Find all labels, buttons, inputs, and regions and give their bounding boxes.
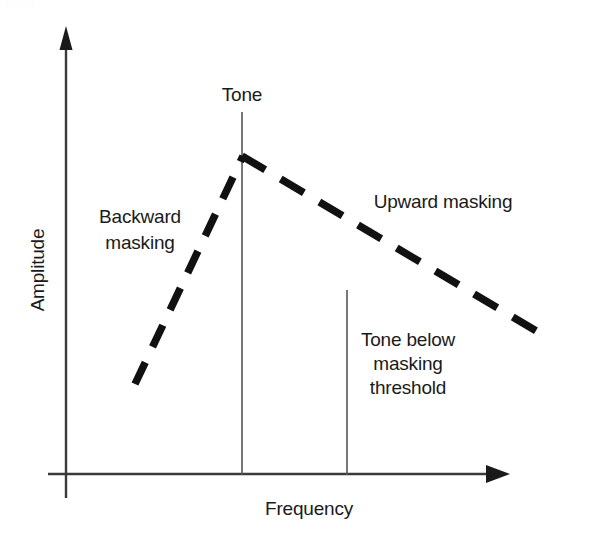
backward-masking-label-line1: Backward: [99, 205, 181, 228]
backward-masking-curve: [135, 156, 243, 384]
tone-label: Tone: [222, 83, 262, 106]
tone-below-threshold-label-line2: masking: [373, 352, 442, 375]
tone-below-threshold-label-line3: threshold: [370, 376, 446, 399]
x-axis-label: Frequency: [265, 497, 353, 520]
y-axis-label: Amplitude: [26, 229, 49, 312]
x-axis: [48, 465, 510, 483]
masking-curve-figure: Tone Backward masking Upward masking Ton…: [0, 0, 594, 534]
chart-canvas: [0, 0, 594, 534]
y-axis: [60, 26, 73, 498]
upward-masking-label: Upward masking: [374, 190, 513, 213]
tone-below-threshold-label-line1: Tone below: [361, 328, 455, 351]
backward-masking-label-line2: masking: [105, 231, 174, 254]
upward-masking-curve: [242, 156, 548, 338]
